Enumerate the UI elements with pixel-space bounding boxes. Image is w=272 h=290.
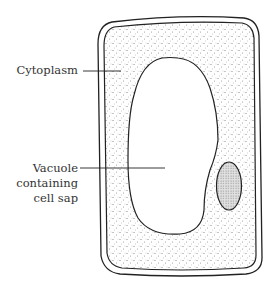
plant-cell-diagram: Cytoplasm Vacuole containing cell sap xyxy=(0,0,272,290)
vacuole-label-line2: containing xyxy=(16,176,78,190)
vacuole xyxy=(128,58,218,235)
vacuole-label-line1: Vacuole xyxy=(32,161,79,175)
vacuole-label-line3: cell sap xyxy=(34,191,78,205)
nucleus xyxy=(217,162,242,210)
cytoplasm-label: Cytoplasm xyxy=(16,63,78,77)
